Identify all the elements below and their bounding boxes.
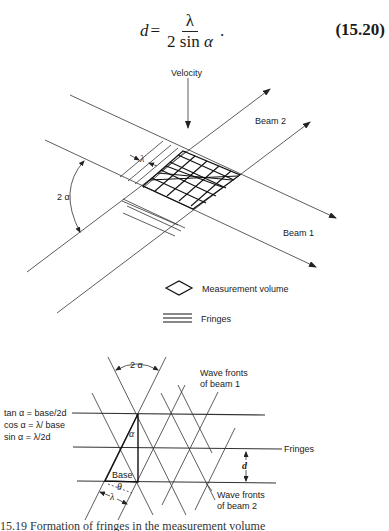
wavefronts-beam1-label-1: Wave fronts (200, 368, 248, 378)
lambda-label: λ (109, 491, 115, 502)
lambda-arrow-right-icon (149, 163, 157, 166)
spacing-label: λ (139, 153, 145, 164)
theta-label: θ (117, 481, 122, 492)
fringe-line-top (72, 413, 265, 415)
formula-tan: tan α = base/2d (4, 408, 67, 418)
diamond-icon (166, 281, 192, 295)
beam2-label: Beam 2 (255, 116, 286, 126)
lambda-arrow-left-icon (100, 492, 110, 496)
fringes-label: Fringes (284, 444, 315, 454)
figure-caption: 15.19 Formation of fringes in the measur… (0, 519, 389, 531)
wavefronts-beam2-label-2: of beam 2 (217, 501, 257, 511)
wavefronts-beam1-label-2: of beam 1 (200, 379, 240, 389)
top-angle-label: 2 α (130, 360, 143, 370)
angle-arc-icon (70, 161, 84, 232)
alpha-label: α (129, 428, 135, 439)
velocity-label: Velocity (171, 68, 203, 78)
legend-fringes-label: Fringes (201, 314, 232, 324)
measurement-volume (143, 151, 240, 209)
lambda-arrow-left-icon (130, 155, 139, 160)
figure: Velocity Beam 2 Beam 1 2 α λ Measurement… (0, 0, 389, 531)
fringes-icon (163, 314, 192, 322)
beam2-leader (206, 483, 212, 491)
fringe-stripes-lower (122, 199, 185, 236)
fringe-line-middle (73, 447, 282, 449)
beam1-label: Beam 1 (283, 228, 314, 238)
wavefronts-beam2-label-1: Wave fronts (217, 490, 265, 500)
formula-sin: sin α = λ/2d (4, 432, 50, 442)
angle-label: 2 α (57, 192, 70, 202)
beam1-upper-edge (70, 95, 336, 218)
d-label: d (242, 460, 248, 471)
top-diagram (27, 78, 336, 322)
lambda-arrow-right-icon (117, 499, 127, 504)
legend-measurement-volume-label: Measurement volume (202, 284, 289, 294)
formula-cos: cos α = λ/ base (4, 420, 65, 430)
base-label: Base (112, 470, 133, 480)
